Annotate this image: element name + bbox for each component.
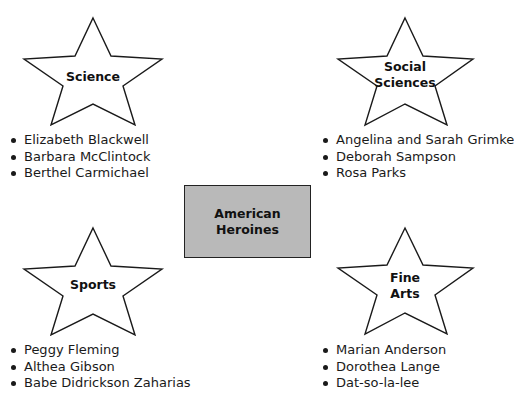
bullet-icon bbox=[323, 365, 328, 370]
item-text: Elizabeth Blackwell bbox=[24, 132, 149, 147]
bullet-icon bbox=[323, 155, 328, 160]
item-text: Dat-so-la-lee bbox=[336, 375, 419, 390]
list-item: Berthel Carmichael bbox=[8, 165, 151, 182]
star-label-fine-arts: Fine Arts bbox=[390, 270, 420, 302]
list-item: Dorothea Lange bbox=[320, 359, 446, 376]
category-title-line2: Arts bbox=[390, 286, 420, 302]
list-item: Deborah Sampson bbox=[320, 149, 514, 166]
bullet-icon bbox=[11, 171, 16, 176]
star-label-social-sciences: Social Sciences bbox=[374, 59, 435, 91]
bullet-icon bbox=[323, 138, 328, 143]
star-label-sports: Sports bbox=[70, 277, 116, 293]
bullet-icon bbox=[11, 155, 16, 160]
category-title-line1: Social bbox=[374, 59, 435, 75]
list-item: Peggy Fleming bbox=[8, 342, 191, 359]
item-text: Berthel Carmichael bbox=[24, 165, 149, 180]
bullet-icon bbox=[11, 381, 16, 386]
bullet-icon bbox=[11, 348, 16, 353]
list-item: Dat-so-la-lee bbox=[320, 375, 446, 392]
bullet-icon bbox=[11, 365, 16, 370]
list-item: Elizabeth Blackwell bbox=[8, 132, 151, 149]
bullet-icon bbox=[323, 348, 328, 353]
category-title-line2: Sciences bbox=[374, 75, 435, 91]
item-text: Althea Gibson bbox=[24, 359, 115, 374]
item-text: Babe Didrickson Zaharias bbox=[24, 375, 191, 390]
list-item: Althea Gibson bbox=[8, 359, 191, 376]
category-title: Science bbox=[66, 69, 120, 85]
list-sports: Peggy Fleming Althea Gibson Babe Didrick… bbox=[8, 342, 191, 392]
star-label-science: Science bbox=[66, 69, 120, 85]
central-topic-line2: Heroines bbox=[214, 222, 280, 238]
list-item: Angelina and Sarah Grimke bbox=[320, 132, 514, 149]
central-topic-line1: American bbox=[214, 206, 280, 222]
item-text: Deborah Sampson bbox=[336, 149, 456, 164]
category-title: Sports bbox=[70, 277, 116, 293]
item-text: Rosa Parks bbox=[336, 165, 406, 180]
list-item: Barbara McClintock bbox=[8, 149, 151, 166]
item-text: Dorothea Lange bbox=[336, 359, 440, 374]
bullet-icon bbox=[11, 138, 16, 143]
central-topic-box: American Heroines bbox=[184, 185, 311, 258]
list-item: Rosa Parks bbox=[320, 165, 514, 182]
item-text: Barbara McClintock bbox=[24, 149, 151, 164]
bullet-icon bbox=[323, 171, 328, 176]
item-text: Marian Anderson bbox=[336, 342, 446, 357]
item-text: Peggy Fleming bbox=[24, 342, 120, 357]
list-item: Babe Didrickson Zaharias bbox=[8, 375, 191, 392]
list-fine-arts: Marian Anderson Dorothea Lange Dat-so-la… bbox=[320, 342, 446, 392]
item-text: Angelina and Sarah Grimke bbox=[336, 132, 514, 147]
list-science: Elizabeth Blackwell Barbara McClintock B… bbox=[8, 132, 151, 182]
category-title-line1: Fine bbox=[390, 270, 420, 286]
list-item: Marian Anderson bbox=[320, 342, 446, 359]
bullet-icon bbox=[323, 381, 328, 386]
list-social-sciences: Angelina and Sarah Grimke Deborah Sampso… bbox=[320, 132, 514, 182]
